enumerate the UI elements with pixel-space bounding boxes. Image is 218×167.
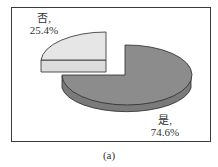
data-label-no: 否, 25.4% [24, 12, 64, 36]
data-label-no-name: 否, [24, 12, 64, 24]
slice-no-top [41, 32, 106, 60]
data-label-yes: 是, 74.6% [145, 114, 185, 138]
data-label-yes-value: 74.6% [145, 126, 185, 138]
data-label-no-value: 25.4% [24, 24, 64, 36]
data-label-yes-name: 是, [145, 114, 185, 126]
figure-caption: (a) [0, 149, 218, 161]
slice-no-side [41, 60, 106, 72]
